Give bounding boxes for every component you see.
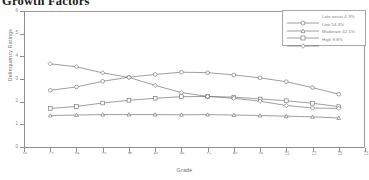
- legend-item: Moderate 42.1%: [286, 28, 363, 36]
- series-2: [48, 95, 340, 111]
- square-icon: [286, 28, 320, 36]
- legend-item: Low 54.3%: [286, 21, 363, 29]
- series-1: [48, 113, 340, 120]
- legend-item-label: Low 54.3%: [322, 22, 344, 27]
- legend-item-label: Late onset 4.3%: [322, 14, 355, 19]
- legend-item: Late onset 4.3%: [286, 13, 363, 21]
- series-0: [48, 70, 340, 96]
- legend-item-label: Moderate 42.1%: [322, 29, 355, 34]
- series-3: [48, 62, 341, 111]
- circle-icon: [286, 13, 320, 21]
- legend-item: High 9.8%: [286, 36, 363, 44]
- triangle-icon: [286, 21, 320, 29]
- diamond-icon: [286, 36, 320, 44]
- legend-item-label: High 9.8%: [322, 37, 343, 42]
- legend: Late onset 4.3%Low 54.3%Moderate 42.1%Hi…: [282, 10, 366, 46]
- chart-figure: Growth Factors Delinquency Ratings Grade…: [0, 0, 369, 180]
